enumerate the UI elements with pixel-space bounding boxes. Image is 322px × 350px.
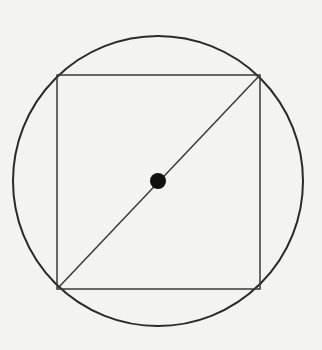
inscribed-square-diagram	[0, 0, 322, 350]
center-point	[150, 173, 166, 189]
